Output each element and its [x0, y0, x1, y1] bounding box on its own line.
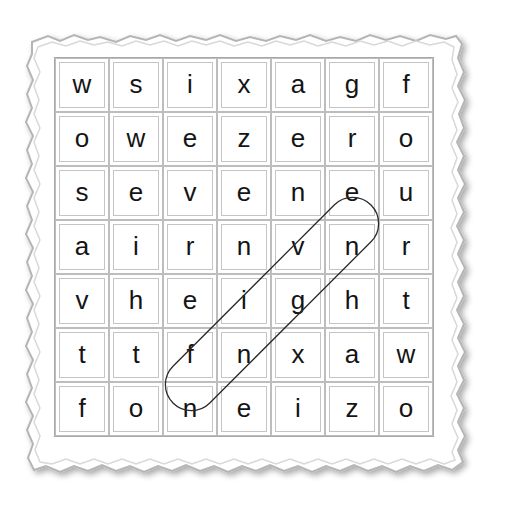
grid-cell-r3-c6[interactable]: r [379, 220, 433, 274]
cell-letter: h [345, 287, 359, 313]
cell-letter: e [183, 287, 197, 313]
grid-cell-r6-c1[interactable]: o [109, 382, 163, 436]
cell-letter: w [73, 71, 92, 97]
cell-letter: n [291, 179, 305, 205]
cell-letter: r [186, 233, 195, 259]
grid-cell-r5-c2[interactable]: f [163, 328, 217, 382]
grid-cell-r1-c1[interactable]: w [109, 112, 163, 166]
grid-cell-r3-c3[interactable]: n [217, 220, 271, 274]
cell-letter: a [75, 233, 89, 259]
grid-cell-r5-c5[interactable]: a [325, 328, 379, 382]
grid-cell-r5-c3[interactable]: n [217, 328, 271, 382]
grid-cell-r0-c4[interactable]: a [271, 58, 325, 112]
cell-letter: v [292, 233, 305, 259]
grid-cell-r2-c2[interactable]: v [163, 166, 217, 220]
cell-letter: z [346, 395, 359, 421]
cell-letter: o [129, 395, 143, 421]
grid-cell-r5-c1[interactable]: t [109, 328, 163, 382]
cell-letter: f [78, 395, 85, 421]
cell-letter: i [187, 71, 193, 97]
grid-cell-r0-c6[interactable]: f [379, 58, 433, 112]
cell-letter: t [132, 341, 139, 367]
cell-letter: n [237, 233, 251, 259]
grid-cell-r5-c6[interactable]: w [379, 328, 433, 382]
cell-letter: e [345, 179, 359, 205]
cell-letter: e [129, 179, 143, 205]
cell-letter: e [291, 125, 305, 151]
cell-letter: g [291, 287, 305, 313]
cell-letter: n [237, 341, 251, 367]
grid-cell-r2-c0[interactable]: s [55, 166, 109, 220]
cell-letter: o [399, 125, 413, 151]
grid-cell-r6-c6[interactable]: o [379, 382, 433, 436]
cell-letter: v [184, 179, 197, 205]
grid-cell-r2-c5[interactable]: e [325, 166, 379, 220]
cell-letter: s [76, 179, 89, 205]
cell-letter: i [133, 233, 139, 259]
cell-letter: n [345, 233, 359, 259]
grid-cell-r2-c3[interactable]: e [217, 166, 271, 220]
grid-cell-r4-c0[interactable]: v [55, 274, 109, 328]
cell-letter: v [76, 287, 89, 313]
grid-cell-r3-c4[interactable]: v [271, 220, 325, 274]
grid-cell-r6-c5[interactable]: z [325, 382, 379, 436]
cell-letter: f [186, 341, 193, 367]
grid-cell-r5-c4[interactable]: x [271, 328, 325, 382]
cell-letter: h [129, 287, 143, 313]
grid-cell-r6-c2[interactable]: n [163, 382, 217, 436]
cell-letter: r [348, 125, 357, 151]
cell-letter: n [183, 395, 197, 421]
cell-letter: t [402, 287, 409, 313]
cell-letter: e [237, 395, 251, 421]
cell-letter: r [402, 233, 411, 259]
grid-cell-r5-c0[interactable]: t [55, 328, 109, 382]
grid-cell-r6-c3[interactable]: e [217, 382, 271, 436]
cell-letter: g [345, 71, 359, 97]
grid-cell-r3-c1[interactable]: i [109, 220, 163, 274]
grid-cell-r3-c2[interactable]: r [163, 220, 217, 274]
grid-cell-r4-c1[interactable]: h [109, 274, 163, 328]
cell-letter: i [241, 287, 247, 313]
cell-letter: e [237, 179, 251, 205]
grid-cell-r2-c1[interactable]: e [109, 166, 163, 220]
cell-letter: a [291, 71, 305, 97]
word-search-grid: w s i x a g f o w e z e r o s e v e n e … [55, 58, 433, 436]
grid-cell-r2-c6[interactable]: u [379, 166, 433, 220]
cell-letter: w [127, 125, 146, 151]
grid-cell-r1-c4[interactable]: e [271, 112, 325, 166]
grid-cell-r4-c2[interactable]: e [163, 274, 217, 328]
grid-cell-r0-c3[interactable]: x [217, 58, 271, 112]
grid-cell-r3-c0[interactable]: a [55, 220, 109, 274]
grid-cell-r3-c5[interactable]: n [325, 220, 379, 274]
cell-letter: x [238, 71, 251, 97]
cell-letter: i [295, 395, 301, 421]
grid-cell-r4-c3[interactable]: i [217, 274, 271, 328]
cell-letter: z [238, 125, 251, 151]
cell-letter: u [399, 179, 413, 205]
cell-letter: x [292, 341, 305, 367]
cell-letter: s [130, 71, 143, 97]
cell-letter: f [402, 71, 409, 97]
cell-letter: a [345, 341, 359, 367]
grid-cell-r4-c6[interactable]: t [379, 274, 433, 328]
cell-letter: t [78, 341, 85, 367]
grid-cell-r0-c5[interactable]: g [325, 58, 379, 112]
grid-cell-r0-c0[interactable]: w [55, 58, 109, 112]
grid-cell-r6-c4[interactable]: i [271, 382, 325, 436]
grid-cell-r4-c4[interactable]: g [271, 274, 325, 328]
grid-cell-r4-c5[interactable]: h [325, 274, 379, 328]
grid-cell-r2-c4[interactable]: n [271, 166, 325, 220]
cell-letter: o [399, 395, 413, 421]
grid-cell-r6-c0[interactable]: f [55, 382, 109, 436]
cell-letter: w [397, 341, 416, 367]
cell-letter: e [183, 125, 197, 151]
grid-cell-r1-c3[interactable]: z [217, 112, 271, 166]
grid-cell-r1-c2[interactable]: e [163, 112, 217, 166]
grid-cell-r0-c1[interactable]: s [109, 58, 163, 112]
grid-cell-r0-c2[interactable]: i [163, 58, 217, 112]
grid-cell-r1-c6[interactable]: o [379, 112, 433, 166]
cell-letter: o [75, 125, 89, 151]
grid-cell-r1-c0[interactable]: o [55, 112, 109, 166]
grid-cell-r1-c5[interactable]: r [325, 112, 379, 166]
